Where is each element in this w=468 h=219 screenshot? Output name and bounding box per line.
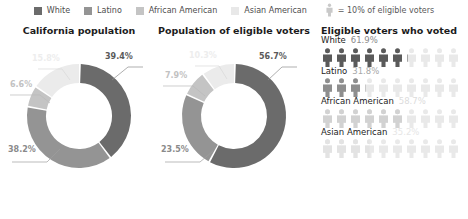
- person-icon: [363, 109, 376, 128]
- square-swatch-icon: [84, 7, 92, 15]
- person-icon: [321, 48, 334, 67]
- person-icon: [349, 139, 362, 158]
- donut-label-white: 56.7%: [259, 53, 287, 61]
- person-icon: [419, 48, 432, 67]
- person-icon: [447, 78, 460, 97]
- person-icon: [377, 48, 390, 67]
- donut-segment-latino: [27, 108, 110, 168]
- person-icon: [391, 139, 404, 158]
- legend-item-african-american: African American: [136, 7, 218, 15]
- person-icon: [325, 2, 334, 21]
- person-icon: [405, 48, 418, 67]
- square-swatch-icon: [231, 7, 239, 15]
- legend-label: Asian American: [244, 7, 306, 15]
- donut-chart-eligible-voters: 56.7% 23.5% 7.9% 10.3%: [155, 36, 313, 196]
- pictogram-value-label: 31.8%: [352, 67, 379, 76]
- donut-chart-california-population: 39.4% 38.2% 6.6% 15.8%: [0, 36, 158, 196]
- square-swatch-icon: [34, 7, 42, 15]
- donut-label-african-american: 7.9%: [165, 72, 187, 80]
- panel-title: California population: [0, 26, 158, 36]
- person-icon: [405, 139, 418, 158]
- pictogram-chart: White61.9%Latino31.8%African American58.…: [313, 36, 468, 158]
- person-icon: [447, 109, 460, 128]
- person-icon: [419, 78, 432, 97]
- person-icon: [405, 109, 418, 128]
- person-icon: [447, 48, 460, 67]
- person-icon: [391, 109, 404, 128]
- pictogram-row: [321, 47, 468, 67]
- legend-key-label: = 10% of eligible voters: [338, 7, 434, 15]
- legend-label: African American: [149, 7, 218, 15]
- person-icon: [377, 109, 390, 128]
- pictogram-header: Asian American35.2%: [321, 128, 468, 137]
- person-icon: [363, 48, 376, 67]
- legend-item-latino: Latino: [84, 7, 122, 15]
- legend-item-asian-american: Asian American: [231, 7, 306, 15]
- donut-segment-white: [80, 64, 131, 157]
- donut-label-african-american: 6.6%: [10, 81, 32, 89]
- pictogram-category-label: African American: [321, 97, 394, 106]
- leader-line: [112, 67, 143, 80]
- pictogram-header: Latino31.8%: [321, 67, 468, 76]
- person-icon: [391, 78, 404, 97]
- donut-label-asian-american: 15.8%: [32, 55, 60, 63]
- square-swatch-icon: [136, 7, 144, 15]
- legend-key-unit: = 10% of eligible voters: [325, 2, 434, 21]
- panel-title: Population of eligible voters: [155, 26, 313, 36]
- person-icon: [335, 139, 348, 158]
- pictogram-row: [321, 77, 468, 97]
- pictogram-row: [321, 138, 468, 158]
- person-icon: [321, 78, 334, 97]
- pictogram-value-label: 61.9%: [351, 36, 378, 45]
- person-icon: [377, 78, 390, 97]
- donut-svg: [155, 36, 313, 196]
- leader-line: [268, 67, 297, 80]
- donut-label-latino: 38.2%: [8, 146, 36, 154]
- legend: White Latino African American Asian Amer…: [0, 0, 468, 22]
- panel-population-eligible-voters: Population of eligible voters 56.7% 23.5…: [155, 26, 313, 196]
- legend-label: White: [47, 7, 70, 15]
- person-icon: [391, 48, 404, 67]
- legend-item-white: White: [34, 7, 70, 15]
- person-icon: [433, 78, 446, 97]
- person-icon: [419, 109, 432, 128]
- donut-label-white: 39.4%: [105, 53, 133, 61]
- donut-label-asian-american: 10.3%: [189, 52, 217, 60]
- person-icon: [433, 139, 446, 158]
- person-icon: [349, 48, 362, 67]
- person-icon: [419, 139, 432, 158]
- donut-svg: [0, 36, 158, 196]
- pictogram-group-white: White61.9%: [321, 36, 468, 67]
- person-icon: [349, 78, 362, 97]
- panel-eligible-voters-who-voted: Eligible voters who voted White61.9%Lati…: [313, 26, 468, 158]
- person-icon: [335, 48, 348, 67]
- person-icon: [405, 78, 418, 97]
- pictogram-value-label: 35.2%: [392, 128, 419, 137]
- person-icon: [433, 48, 446, 67]
- pictogram-group-african-american: African American58.7%: [321, 97, 468, 128]
- pictogram-category-label: Latino: [321, 67, 347, 76]
- pictogram-row: [321, 108, 468, 128]
- panel-california-population: California population 39.4% 38.2% 6.6% 1…: [0, 26, 158, 196]
- pictogram-category-label: White: [321, 36, 346, 45]
- legend-label: Latino: [97, 7, 122, 15]
- pictogram-category-label: Asian American: [321, 128, 387, 137]
- pictogram-group-asian-american: Asian American35.2%: [321, 128, 468, 159]
- person-icon: [349, 109, 362, 128]
- pictogram-header: White61.9%: [321, 36, 468, 45]
- person-icon: [335, 109, 348, 128]
- person-icon: [377, 139, 390, 158]
- pictogram-group-latino: Latino31.8%: [321, 67, 468, 98]
- person-icon: [363, 139, 376, 158]
- person-icon: [433, 109, 446, 128]
- person-icon: [335, 78, 348, 97]
- person-icon: [363, 78, 376, 97]
- person-icon: [321, 139, 334, 158]
- pictogram-value-label: 58.7%: [399, 97, 426, 106]
- person-icon: [447, 139, 460, 158]
- pictogram-header: African American58.7%: [321, 97, 468, 106]
- person-icon: [321, 109, 334, 128]
- donut-label-latino: 23.5%: [161, 146, 189, 154]
